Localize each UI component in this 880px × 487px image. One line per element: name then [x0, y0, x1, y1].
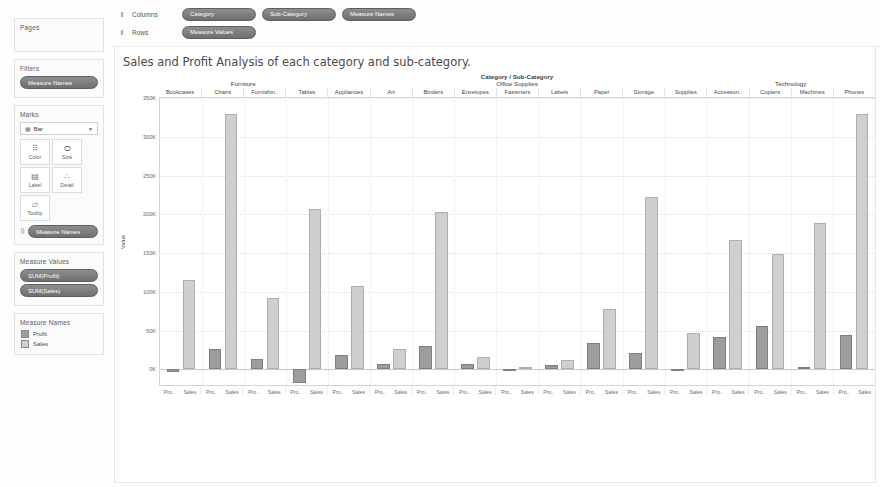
- bar-profit-appliances[interactable]: [335, 355, 348, 369]
- filters-card[interactable]: Filters Measure Names: [14, 59, 104, 98]
- rows-shelf[interactable]: ‖ Rows Measure Values: [118, 24, 872, 40]
- bar-sales-appliances[interactable]: [351, 286, 364, 370]
- subcategory-header[interactable]: Bookcases: [159, 88, 201, 97]
- x-tick-label[interactable]: Sales: [686, 386, 707, 395]
- measure-value-pill-sum-profit[interactable]: SUM(Profit): [20, 269, 98, 282]
- x-tick-label[interactable]: Sales: [180, 386, 201, 395]
- bar-sales-envelopes[interactable]: [477, 357, 490, 370]
- x-tick-label[interactable]: Sales: [517, 386, 538, 395]
- x-tick-label[interactable]: Pro..: [412, 386, 433, 395]
- subcategory-header[interactable]: Furnishin..: [243, 88, 285, 97]
- x-tick-label[interactable]: Sales: [433, 386, 454, 395]
- subcategory-header[interactable]: Appliances: [327, 88, 369, 97]
- bar-sales-binders[interactable]: [435, 212, 448, 369]
- x-tick-label[interactable]: Pro..: [370, 386, 391, 395]
- plot-area[interactable]: [159, 98, 875, 385]
- x-tick-label[interactable]: Sales: [222, 386, 243, 395]
- x-tick-label[interactable]: Sales: [728, 386, 749, 395]
- bar-sales-chairs[interactable]: [225, 114, 238, 370]
- x-tick-label[interactable]: Sales: [770, 386, 791, 395]
- x-tick-label[interactable]: Sales: [264, 386, 285, 395]
- bar-sales-storage[interactable]: [645, 197, 658, 370]
- x-tick-label[interactable]: Sales: [812, 386, 833, 395]
- bar-sales-tables[interactable]: [309, 209, 322, 370]
- tooltip-button[interactable]: ▱ Tooltip: [20, 195, 50, 221]
- x-tick-label[interactable]: Sales: [643, 386, 664, 395]
- bar-profit-bookcases[interactable]: [167, 369, 180, 372]
- subcategory-header[interactable]: Paper: [580, 88, 622, 97]
- bar-sales-accessori-[interactable]: [729, 240, 742, 370]
- bar-profit-furnishin-[interactable]: [251, 359, 264, 369]
- column-pill-sub-category[interactable]: Sub-Category: [262, 8, 336, 21]
- bar-sales-labels[interactable]: [561, 360, 574, 370]
- subcategory-header[interactable]: Storage: [622, 88, 664, 97]
- x-tick-label[interactable]: Pro..: [496, 386, 517, 395]
- subcategory-header[interactable]: Phones: [833, 88, 875, 97]
- bar-sales-copiers[interactable]: [772, 254, 785, 370]
- x-tick-label[interactable]: Pro..: [665, 386, 686, 395]
- legend-item-sales[interactable]: Sales: [21, 340, 98, 348]
- subcategory-header[interactable]: Labels: [538, 88, 580, 97]
- pages-card[interactable]: Pages: [14, 18, 104, 52]
- bar-profit-storage[interactable]: [629, 353, 642, 370]
- column-pill-category[interactable]: Category: [182, 8, 256, 21]
- bar-sales-bookcases[interactable]: [183, 280, 196, 369]
- subcategory-header[interactable]: Binders: [412, 88, 454, 97]
- measure-value-pill-sum-sales[interactable]: SUM(Sales): [20, 284, 98, 297]
- bar-sales-furnishin-[interactable]: [267, 298, 280, 369]
- bar-profit-accessori-[interactable]: [713, 337, 726, 370]
- bar-sales-paper[interactable]: [603, 309, 616, 370]
- bar-profit-paper[interactable]: [587, 343, 600, 369]
- bar-sales-machines[interactable]: [814, 223, 827, 370]
- x-tick-label[interactable]: Pro..: [834, 386, 855, 395]
- x-tick-label[interactable]: Pro..: [749, 386, 770, 395]
- category-header[interactable]: Furniture: [159, 80, 327, 88]
- columns-shelf[interactable]: ‖ Columns Category Sub-Category Measure …: [118, 6, 872, 22]
- x-tick-label[interactable]: Pro..: [623, 386, 644, 395]
- color-button[interactable]: ⠿ Color: [20, 139, 50, 165]
- subcategory-header[interactable]: Copiers: [749, 88, 791, 97]
- bar-profit-envelopes[interactable]: [461, 364, 474, 369]
- bar-profit-chairs[interactable]: [209, 349, 222, 370]
- x-tick-label[interactable]: Sales: [306, 386, 327, 395]
- subcategory-header[interactable]: Fasteners: [496, 88, 538, 97]
- bar-sales-phones[interactable]: [856, 114, 869, 370]
- marks-pill-measure-names[interactable]: Measure Names: [28, 225, 98, 238]
- filter-pill-measure-names[interactable]: Measure Names: [20, 76, 98, 89]
- bar-profit-phones[interactable]: [840, 335, 853, 370]
- subcategory-header[interactable]: Supplies: [664, 88, 706, 97]
- label-button[interactable]: ▤ Label: [20, 167, 50, 193]
- chevron-down-icon[interactable]: ▼: [88, 126, 93, 132]
- x-tick-label[interactable]: Sales: [559, 386, 580, 395]
- bar-sales-fasteners[interactable]: [519, 367, 532, 369]
- bar-profit-tables[interactable]: [293, 369, 306, 383]
- x-tick-label[interactable]: Pro..: [201, 386, 222, 395]
- bar-profit-fasteners[interactable]: [503, 369, 516, 371]
- legend-item-profit[interactable]: Profit: [21, 330, 98, 338]
- x-tick-label[interactable]: Sales: [475, 386, 496, 395]
- x-tick-label[interactable]: Pro..: [159, 386, 180, 395]
- detail-button[interactable]: ∴ Detail: [52, 167, 82, 193]
- x-tick-label[interactable]: Pro..: [707, 386, 728, 395]
- x-tick-label[interactable]: Pro..: [243, 386, 264, 395]
- x-tick-label[interactable]: Sales: [854, 386, 875, 395]
- subcategory-header[interactable]: Tables: [285, 88, 327, 97]
- subcategory-header[interactable]: Envelopes: [454, 88, 496, 97]
- x-tick-label[interactable]: Pro..: [581, 386, 602, 395]
- bar-profit-machines[interactable]: [798, 367, 811, 370]
- x-tick-label[interactable]: Pro..: [328, 386, 349, 395]
- mark-type-select[interactable]: ▦ Bar ▼: [20, 122, 98, 135]
- category-header[interactable]: Technology: [707, 80, 875, 88]
- row-pill-measure-values[interactable]: Measure Values: [182, 26, 256, 39]
- subcategory-header[interactable]: Art: [370, 88, 412, 97]
- x-tick-label[interactable]: Sales: [390, 386, 411, 395]
- subcategory-header[interactable]: Accessori..: [706, 88, 748, 97]
- x-tick-label[interactable]: Pro..: [792, 386, 813, 395]
- subcategory-header[interactable]: Chairs: [201, 88, 243, 97]
- bar-sales-supplies[interactable]: [687, 333, 700, 369]
- bar-profit-binders[interactable]: [419, 346, 432, 369]
- x-tick-label[interactable]: Pro..: [454, 386, 475, 395]
- x-tick-label[interactable]: Pro..: [539, 386, 560, 395]
- bar-profit-labels[interactable]: [545, 365, 558, 369]
- x-tick-label[interactable]: Sales: [348, 386, 369, 395]
